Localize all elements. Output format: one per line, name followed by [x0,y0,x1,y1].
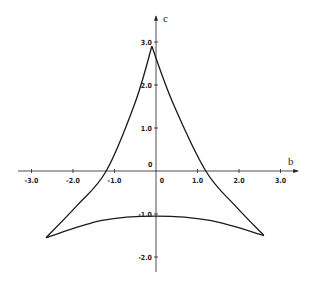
x-tick-label: -1.0 [108,177,122,185]
y-tick-label: 2.0 [141,82,153,90]
y-axis-label: c [163,12,168,24]
x-tick-label: -3.0 [25,177,39,185]
x-axis-label: b [288,155,294,167]
curve [46,46,264,237]
y-tick-label: -2.0 [138,254,152,262]
x-tick-label: 0 [160,177,165,185]
axis-labels: b c 0 [148,12,294,169]
x-tick-label: -2.0 [66,177,80,185]
origin-label-upper: 0 [148,161,153,169]
y-tick-label: 3.0 [141,39,153,47]
x-tick-label: 3.0 [275,177,287,185]
curve-right-branch [152,46,264,235]
y-tick-label: 1.0 [141,125,153,133]
curve-left-branch [46,46,152,237]
x-tick-label: 2.0 [233,177,245,185]
chart: -3.0-2.0-1.001.02.03.03.02.01.0-1.0-2.0 … [0,0,314,284]
y-tick-label: -1.0 [138,211,152,219]
curve-bottom-branch [46,216,264,238]
x-tick-label: 1.0 [192,177,204,185]
